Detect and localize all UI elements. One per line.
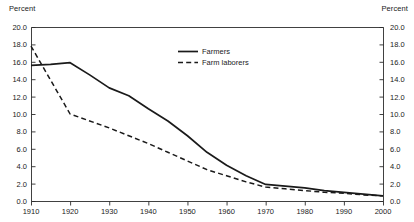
- y-axis-tick-label-right: 0.0: [390, 197, 400, 206]
- y-axis-tick-label-right: 16.0: [390, 57, 405, 66]
- y-axis-tick-label-left: 4.0: [2, 162, 27, 171]
- series-line-farm-laborers: [31, 46, 383, 196]
- y-axis-tick-label-right: 2.0: [390, 179, 400, 188]
- chart-container: Percent Percent 0.00.02.02.04.04.06.06.0…: [0, 0, 414, 222]
- y-axis-tick-label-left: 2.0: [2, 179, 27, 188]
- y-axis-tick-label-right: 14.0: [390, 75, 405, 84]
- y-axis-tick-label-left: 18.0: [2, 40, 27, 49]
- x-axis-tick-label: 1920: [62, 207, 79, 216]
- y-axis-tick-label-right: 12.0: [390, 92, 405, 101]
- series-line-farmers: [31, 63, 383, 196]
- y-axis-tick-label-left: 10.0: [2, 110, 27, 119]
- x-axis-tick-label: 1950: [179, 207, 196, 216]
- legend-label-farm-laborers: Farm laborers: [202, 58, 249, 67]
- y-axis-tick-label-right: 10.0: [390, 110, 405, 119]
- x-axis-tick-label: 1990: [336, 207, 353, 216]
- x-axis-tick-label: 2000: [375, 207, 392, 216]
- x-axis-tick-label: 1970: [257, 207, 274, 216]
- x-axis-tick-label: 1910: [23, 207, 40, 216]
- y-axis-tick-label-left: 8.0: [2, 127, 27, 136]
- y-axis-tick-label-right: 8.0: [390, 127, 400, 136]
- x-axis-tick-label: 1940: [140, 207, 157, 216]
- y-axis-tick-label-left: 14.0: [2, 75, 27, 84]
- plot-area: [0, 0, 414, 222]
- y-axis-tick-label-right: 6.0: [390, 144, 400, 153]
- y-axis-tick-label-right: 20.0: [390, 23, 405, 32]
- y-axis-tick-label-left: 20.0: [2, 23, 27, 32]
- y-axis-tick-label-left: 0.0: [2, 197, 27, 206]
- y-axis-tick-label-left: 12.0: [2, 92, 27, 101]
- y-axis-tick-label-left: 16.0: [2, 57, 27, 66]
- x-axis-tick-label: 1980: [296, 207, 313, 216]
- y-axis-tick-label-right: 4.0: [390, 162, 400, 171]
- y-axis-tick-label-right: 18.0: [390, 40, 405, 49]
- y-axis-tick-label-left: 6.0: [2, 144, 27, 153]
- x-axis-tick-label: 1930: [101, 207, 118, 216]
- x-axis-tick-label: 1960: [218, 207, 235, 216]
- legend-label-farmers: Farmers: [202, 47, 230, 56]
